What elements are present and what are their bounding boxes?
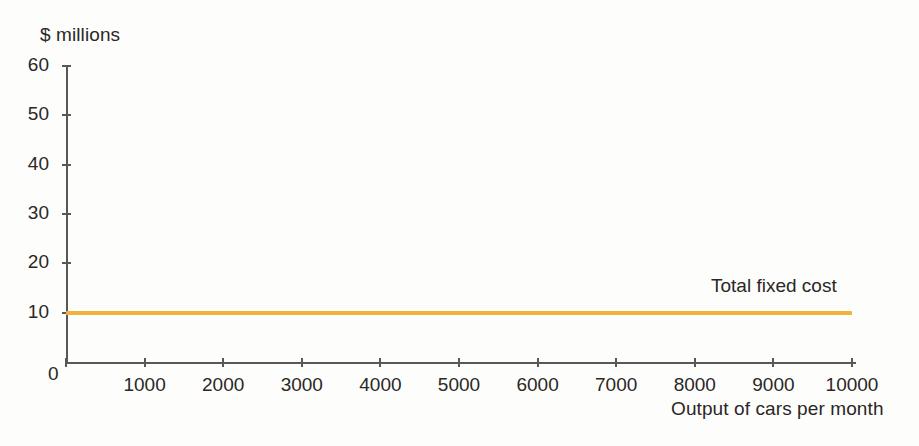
y-axis-tick-label: 50: [9, 103, 49, 125]
y-axis-tick-label: 20: [9, 251, 49, 273]
total-fixed-cost-label: Total fixed cost: [711, 275, 837, 297]
y-axis-title: $ millions: [40, 24, 120, 46]
y-axis-tick-label: 30: [9, 202, 49, 224]
x-axis-tick: [144, 358, 146, 367]
x-axis-tick-label: 9000: [752, 374, 794, 396]
x-axis-tick: [379, 358, 381, 367]
x-axis-tick-label: 2000: [202, 374, 244, 396]
total-fixed-cost-line: [66, 311, 852, 315]
y-axis-tick: [62, 262, 71, 264]
x-axis-tick-label: 8000: [674, 374, 716, 396]
x-axis-tick: [458, 358, 460, 367]
chart-container: $ millions 102030405060 1000200030004000…: [0, 0, 919, 446]
x-axis-tick-label: 7000: [595, 374, 637, 396]
x-axis-tick: [615, 358, 617, 367]
y-axis-tick: [62, 164, 71, 166]
x-axis-tick: [537, 358, 539, 367]
x-axis-tick: [222, 358, 224, 367]
x-axis-line: [66, 362, 856, 364]
y-axis-tick-label: 60: [9, 54, 49, 76]
x-axis-tick: [694, 358, 696, 367]
x-axis-tick: [772, 358, 774, 367]
y-axis-tick-label: 40: [9, 153, 49, 175]
x-axis-tick: [301, 358, 303, 367]
x-axis-tick-label: 4000: [359, 374, 401, 396]
x-axis-tick-label: 3000: [281, 374, 323, 396]
y-axis-tick-label: 10: [9, 301, 49, 323]
origin-label: 0: [48, 363, 59, 385]
y-axis-tick: [62, 114, 71, 116]
y-axis-tick: [62, 65, 71, 67]
x-axis-tick: [65, 358, 67, 367]
x-axis-tick-label: 1000: [123, 374, 165, 396]
x-axis-tick-label: 10000: [826, 374, 879, 396]
x-axis-tick: [851, 358, 853, 367]
x-axis-tick-label: 5000: [438, 374, 480, 396]
x-axis-tick-label: 6000: [516, 374, 558, 396]
y-axis-tick: [62, 213, 71, 215]
x-axis-title: Output of cars per month: [671, 398, 884, 420]
